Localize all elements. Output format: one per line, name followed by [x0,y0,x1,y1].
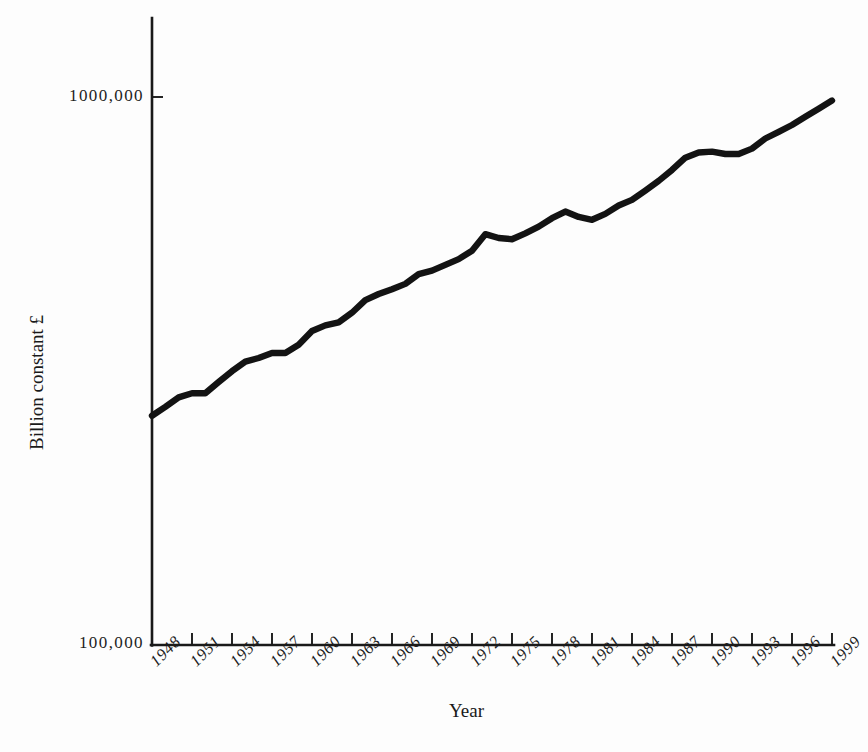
y-axis-title: Billion constant £ [26,315,48,450]
x-axis-title: Year [449,700,484,722]
y-tick-label-1000000: 1000,000 [50,86,144,106]
data-series-uk-gdp [152,101,832,416]
y-tick-label-100000: 100,000 [50,633,144,653]
chart-figure: 1000,000 100,000 Billion constant £ 1948… [0,0,868,752]
